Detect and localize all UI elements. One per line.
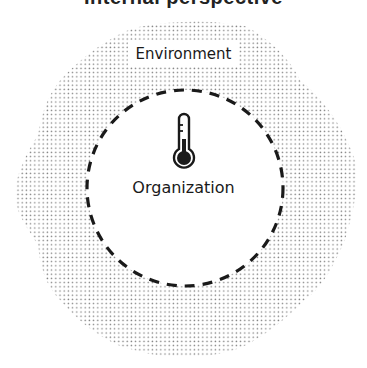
- environment-label: Environment: [0, 45, 367, 63]
- organization-label: Organization: [0, 178, 367, 197]
- thermometer-icon: [169, 111, 199, 173]
